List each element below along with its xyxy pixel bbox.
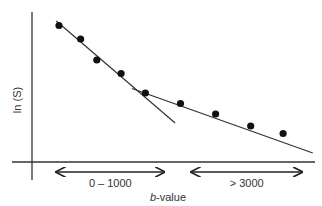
x-axis-label: b-value <box>150 191 186 203</box>
chart: 0 – 1000> 3000 ln (S) b-value <box>0 0 322 206</box>
data-point-0 <box>55 22 62 29</box>
data-point-6 <box>212 110 219 117</box>
high-b-fit-line <box>132 89 313 154</box>
data-point-7 <box>247 122 254 129</box>
low-b-fit-line <box>56 21 175 123</box>
data-point-8 <box>280 130 287 137</box>
y-axis-label: ln (S) <box>11 87 23 113</box>
range-label-1: > 3000 <box>230 177 264 189</box>
data-point-1 <box>77 35 84 42</box>
range-label-0: 0 – 1000 <box>89 177 132 189</box>
data-point-5 <box>177 100 184 107</box>
data-point-4 <box>142 89 149 96</box>
data-point-2 <box>93 56 100 63</box>
data-point-3 <box>118 70 125 77</box>
